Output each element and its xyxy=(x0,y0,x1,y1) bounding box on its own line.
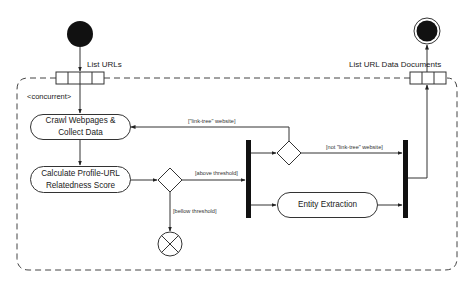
fork-bar xyxy=(246,140,251,218)
guard-below-threshold: [bellow threshold] xyxy=(173,208,217,214)
guard-above-threshold: [above threshold] xyxy=(195,170,238,176)
decision-node-linktree xyxy=(277,141,301,165)
guard-not-linktree: [not "link-tree" website] xyxy=(326,144,383,150)
flow-linktree-loop xyxy=(131,127,289,141)
activity-crawl-label-line1: Crawl Webpages & xyxy=(46,115,116,127)
activity-calc-label-line1: Calculate Profile-URL xyxy=(41,168,120,180)
activity-final-node xyxy=(414,18,440,44)
activity-calc-label-line2: Relatedness Score xyxy=(41,180,120,192)
input-pin-list-urls xyxy=(56,72,104,84)
flow-final-node xyxy=(158,232,182,256)
activity-entity-label: Entity Extraction xyxy=(298,199,357,211)
flow-join-to-output-pin xyxy=(408,85,427,178)
output-pin-list-url-data-documents xyxy=(410,72,446,84)
guard-linktree: ["link-tree" website] xyxy=(188,118,236,124)
initial-node xyxy=(67,21,93,47)
activity-crawl-label-line2: Collect Data xyxy=(46,127,116,139)
input-pin-label: List URLs xyxy=(87,60,122,69)
region-stereotype: <concurrent> xyxy=(27,92,71,101)
activity-crawl-webpages: Crawl Webpages & Collect Data xyxy=(30,114,131,140)
activity-entity-extraction: Entity Extraction xyxy=(277,192,378,218)
join-bar xyxy=(403,140,408,218)
activity-diagram xyxy=(0,0,472,287)
activity-calculate-relatedness: Calculate Profile-URL Relatedness Score xyxy=(30,166,131,193)
decision-node-threshold xyxy=(158,168,182,192)
output-pin-label: List URL Data Documents xyxy=(349,60,441,69)
